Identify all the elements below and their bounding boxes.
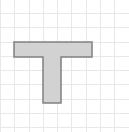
grid-canvas [0, 0, 129, 132]
t-shape-polygon[interactable] [14, 42, 92, 103]
shape-layer [0, 0, 129, 132]
